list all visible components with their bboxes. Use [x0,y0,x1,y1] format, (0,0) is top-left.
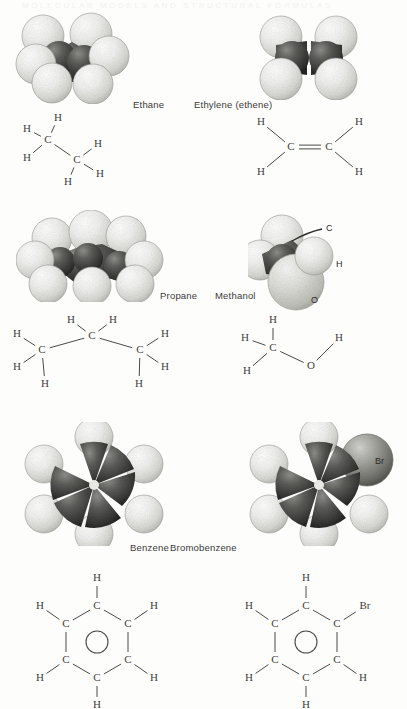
molecule-label-benzene: Benzene [130,542,169,553]
methanol-callout-c: C [326,223,333,233]
atom-label-h-0: H [13,327,21,339]
molecule-cell-ethylene: Ethylene (ethene) HHCCHH [203,0,407,195]
atom-label-h-8: H [359,671,367,683]
atom-label-c-5: C [88,329,95,341]
atom-label-h-4: H [355,115,363,127]
atom-label-h-9: H [93,698,101,709]
atom-label-h-8: H [161,327,169,339]
molecule-label-propane: Propane [160,290,197,301]
atom-label-h-0: H [257,115,265,127]
molecule-label-methanol: Methanol [215,290,256,301]
atom-label-h-7: H [96,167,104,179]
atom-label-c-0: C [302,599,309,611]
atom-label-c-4: C [271,653,278,665]
atom-label-c-1: C [38,343,45,355]
molecule-cell-bromobenzene: Br Bromobenzene CCCCCCHBrHHHH [203,414,407,709]
atom-label-h-6: H [94,137,102,149]
molecule-label-bromobenzene: Bromobenzene [170,542,237,553]
methanol-callout-h: H [336,259,343,269]
atom-label-c-2: C [269,341,276,353]
ethane-space-filling-model [12,12,130,104]
atom-label-h-5: H [64,175,72,187]
structural-formula-bromobenzene: CCCCCCHBrHHHH [247,574,387,709]
atom-label-c-2: C [287,140,294,152]
ethylene-space-filling-model [250,14,366,100]
atom-label-h-2: H [13,360,21,372]
structural-formula-methanol: HHCHOH [235,314,360,386]
atom-label-h-9: H [161,360,169,372]
atom-label-c-5: C [271,617,278,629]
atom-label-h-10: H [245,671,253,683]
atom-label-h-3: H [23,151,31,163]
atom-label-h-5: H [335,331,343,343]
benzene-space-filling-model [22,422,166,546]
atom-label-br-7: Br [360,599,371,611]
molecule-cell-benzene: Benzene CCCCCCHHHHHH [0,414,200,709]
atom-label-h-4: H [67,313,75,325]
atom-label-h-3: H [243,364,251,376]
atom-label-h-7: H [150,599,158,611]
figure-page: MOLECULAR MODELS AND STRUCTURAL FORMULAS [0,0,407,709]
atom-label-h-8: H [150,671,158,683]
atom-label-h-11: H [245,599,253,611]
bromobenzene-space-filling-model [247,422,397,546]
atom-label-h-6: H [109,313,117,325]
molecule-cell-methanol: C H O Methanol HHCHOH [203,202,407,402]
atom-label-h-3: H [41,377,49,389]
structural-formula-benzene: CCCCCCHHHHHH [38,574,168,709]
atom-label-c-2: C [44,133,51,145]
atom-label-h-0: H [23,122,31,134]
structural-formula-ethylene: HHCCHH [251,114,376,186]
atom-label-h-0: H [269,313,277,325]
methanol-space-filling-model [248,212,368,312]
molecule-label-ethane: Ethane [133,99,164,110]
structural-formula-propane: HCHHHCHCHHH [9,312,184,394]
atom-label-c-1: C [333,617,340,629]
atom-label-h-1: H [54,111,62,123]
atom-label-c-3: C [325,140,332,152]
atom-label-c-5: C [62,617,69,629]
atom-label-h-6: H [302,571,310,583]
atom-label-h-1: H [241,331,249,343]
atom-label-c-0: C [93,599,100,611]
bromobenzene-callout-br: Br [375,456,384,466]
atom-label-o-4: O [307,359,315,371]
molecule-cell-ethane: Ethane HHCHCHHH [0,0,200,195]
atom-label-h-5: H [355,165,363,177]
atom-label-h-10: H [135,377,143,389]
atom-label-h-6: H [93,571,101,583]
molecule-cell-propane: Propane HCHHHCHCHHH [0,202,200,402]
atom-label-h-10: H [36,671,44,683]
structural-formula-ethane: HHCHCHHH [14,112,119,192]
atom-label-c-3: C [302,671,309,683]
molecule-label-ethylene: Ethylene (ethene) [194,99,272,110]
atom-label-c-1: C [124,617,131,629]
atom-label-h-11: H [36,599,44,611]
atom-label-h-1: H [257,165,265,177]
atom-label-c-7: C [136,343,143,355]
methanol-callout-o: O [311,295,318,305]
atom-label-c-4: C [73,153,80,165]
atom-label-c-2: C [333,653,340,665]
propane-space-filling-model [16,210,166,302]
atom-label-h-9: H [302,698,310,709]
atom-label-c-3: C [93,671,100,683]
atom-label-c-2: C [124,653,131,665]
atom-label-c-4: C [62,653,69,665]
